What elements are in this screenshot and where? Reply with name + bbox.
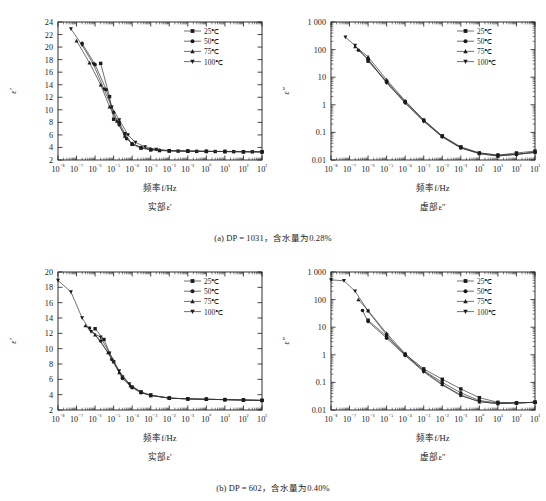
svg-text:实部ε': 实部ε' [148,451,172,462]
svg-text:100℃: 100℃ [204,308,223,317]
svg-text:75℃: 75℃ [204,47,219,56]
chart-panel-a-real: 10⁻⁸10⁻⁷10⁻⁶10⁻⁵10⁻⁴10⁻³10⁻²10⁻¹10⁰10¹10… [0,0,273,232]
svg-text:10³: 10³ [530,413,540,423]
svg-text:10: 10 [45,106,53,115]
svg-text:10²: 10² [511,413,521,423]
svg-text:50℃: 50℃ [477,287,492,296]
svg-text:10⁻²: 10⁻² [436,413,449,423]
svg-text:10⁻⁷: 10⁻⁷ [70,163,83,173]
svg-text:1 000: 1 000 [308,268,326,277]
svg-text:6: 6 [49,375,53,384]
svg-text:10¹: 10¹ [220,163,230,173]
svg-text:频率f/Hz: 频率f/Hz [143,182,176,193]
svg-text:25℃: 25℃ [477,277,492,286]
svg-text:10¹: 10¹ [220,413,230,423]
svg-text:10⁻⁵: 10⁻⁵ [107,413,120,423]
svg-text:20: 20 [45,268,53,277]
svg-text:10⁻⁸: 10⁻⁸ [51,413,64,423]
svg-text:4: 4 [49,143,53,152]
plot-b-imag: 10⁻⁸10⁻⁷10⁻⁶10⁻⁵10⁻⁴10⁻³10⁻²10⁻¹10⁰10¹10… [273,250,546,482]
plot-a-imag: 10⁻⁸10⁻⁷10⁻⁶10⁻⁵10⁻⁴10⁻³10⁻²10⁻¹10⁰10¹10… [273,0,546,232]
svg-text:虚部ε″: 虚部ε″ [420,451,446,462]
svg-text:16: 16 [45,68,53,77]
svg-text:10⁻⁷: 10⁻⁷ [70,413,83,423]
plot-a-real: 10⁻⁸10⁻⁷10⁻⁶10⁻⁵10⁻⁴10⁻³10⁻²10⁻¹10⁰10¹10… [0,0,273,232]
svg-text:8: 8 [49,118,53,127]
svg-text:1: 1 [322,101,326,110]
svg-text:10¹: 10¹ [493,413,503,423]
svg-text:10⁻⁸: 10⁻⁸ [51,163,64,173]
svg-text:10⁻¹: 10⁻¹ [454,413,467,423]
plot-b-real: 10⁻⁸10⁻⁷10⁻⁶10⁻⁵10⁻⁴10⁻³10⁻²10⁻¹10⁰10¹10… [0,250,273,482]
svg-text:10⁻⁷: 10⁻⁷ [343,163,356,173]
svg-text:50℃: 50℃ [477,37,492,46]
svg-text:10⁻⁶: 10⁻⁶ [88,163,101,173]
svg-text:6: 6 [49,131,53,140]
svg-text:10⁻⁵: 10⁻⁵ [380,413,393,423]
svg-text:频率f/Hz: 频率f/Hz [143,432,176,443]
svg-text:10⁰: 10⁰ [201,163,212,173]
svg-text:10⁻²: 10⁻² [163,413,176,423]
svg-text:10⁻⁶: 10⁻⁶ [88,413,101,423]
svg-text:75℃: 75℃ [477,47,492,56]
svg-text:10⁰: 10⁰ [201,413,212,423]
caption-a: (a) DP = 1031，含水量为0.28% [0,231,546,243]
chart-panel-b-imag: 10⁻⁸10⁻⁷10⁻⁶10⁻⁵10⁻⁴10⁻³10⁻²10⁻¹10⁰10¹10… [273,250,546,482]
svg-text:虚部ε″: 虚部ε″ [420,201,446,212]
svg-text:10²: 10² [238,163,248,173]
caption-b: (b) DP = 602，含水量为0.40% [0,481,546,493]
svg-text:实部ε': 实部ε' [148,201,172,212]
svg-text:10⁰: 10⁰ [474,413,485,423]
svg-text:10³: 10³ [530,163,540,173]
svg-text:10⁻¹: 10⁻¹ [454,163,467,173]
svg-text:100℃: 100℃ [477,58,496,67]
svg-text:0.01: 0.01 [312,406,326,415]
svg-text:2: 2 [49,406,53,415]
svg-text:10³: 10³ [257,413,267,423]
svg-text:频率f/Hz: 频率f/Hz [416,432,449,443]
svg-text:25℃: 25℃ [204,27,219,36]
figure-page: 10⁻⁸10⁻⁷10⁻⁶10⁻⁵10⁻⁴10⁻³10⁻²10⁻¹10⁰10¹10… [0,0,546,501]
svg-text:10⁻²: 10⁻² [436,163,449,173]
svg-text:10⁻³: 10⁻³ [417,163,430,173]
svg-text:100℃: 100℃ [204,58,223,67]
svg-text:10⁻²: 10⁻² [163,163,176,173]
svg-text:10: 10 [318,323,326,332]
svg-text:10⁻⁴: 10⁻⁴ [126,163,139,173]
svg-text:1 000: 1 000 [308,18,326,27]
svg-text:100: 100 [314,296,326,305]
svg-text:10⁻⁸: 10⁻⁸ [324,163,337,173]
svg-text:ε': ε' [8,338,18,343]
svg-text:25℃: 25℃ [204,277,219,286]
svg-text:10⁻⁴: 10⁻⁴ [126,413,139,423]
svg-text:4: 4 [49,391,53,400]
svg-text:10⁻³: 10⁻³ [144,163,157,173]
svg-text:20: 20 [45,43,53,52]
svg-text:10: 10 [45,345,53,354]
svg-text:12: 12 [45,329,53,338]
svg-text:8: 8 [49,360,53,369]
svg-text:10: 10 [318,73,326,82]
svg-text:16: 16 [45,299,53,308]
panel-row-b: 10⁻⁸10⁻⁷10⁻⁶10⁻⁵10⁻⁴10⁻³10⁻²10⁻¹10⁰10¹10… [0,250,546,500]
svg-text:10⁻⁴: 10⁻⁴ [399,413,412,423]
svg-text:1: 1 [322,351,326,360]
svg-text:75℃: 75℃ [477,297,492,306]
svg-text:10⁰: 10⁰ [474,163,485,173]
svg-text:10²: 10² [511,163,521,173]
svg-text:10⁻⁸: 10⁻⁸ [324,413,337,423]
svg-text:75℃: 75℃ [204,297,219,306]
svg-text:10⁻¹: 10⁻¹ [181,163,194,173]
svg-text:10⁻³: 10⁻³ [144,413,157,423]
svg-text:10²: 10² [238,413,248,423]
svg-text:10⁻⁷: 10⁻⁷ [343,413,356,423]
svg-text:10⁻⁵: 10⁻⁵ [107,163,120,173]
svg-text:10³: 10³ [257,163,267,173]
svg-text:10⁻⁴: 10⁻⁴ [399,163,412,173]
svg-text:10⁻⁵: 10⁻⁵ [380,163,393,173]
svg-text:18: 18 [45,56,53,65]
svg-text:ε': ε' [8,88,18,93]
svg-text:10⁻¹: 10⁻¹ [181,413,194,423]
svg-text:10⁻⁶: 10⁻⁶ [361,163,374,173]
svg-text:100: 100 [314,46,326,55]
